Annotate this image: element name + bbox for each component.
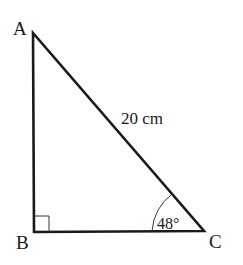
vertex-label-b: B [16, 232, 29, 253]
vertex-label-c: C [209, 231, 222, 252]
hypotenuse-length-label: 20 cm [121, 109, 163, 128]
triangle-abc [33, 33, 204, 232]
vertex-label-a: A [13, 18, 27, 39]
right-angle-marker [34, 216, 49, 232]
triangle-diagram: A B C 20 cm 48° [0, 0, 243, 265]
angle-c-label: 48° [157, 215, 179, 232]
